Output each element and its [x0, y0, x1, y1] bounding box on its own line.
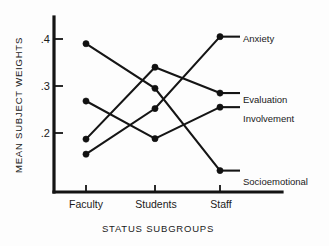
data-point-anxiety-staff[interactable] — [217, 34, 223, 40]
data-point-involvement-students[interactable] — [152, 136, 158, 142]
x-tick-label-faculty: Faculty — [69, 198, 104, 210]
x-axis-title: STATUS SUBGROUPS — [102, 223, 214, 234]
data-point-involvement-staff[interactable] — [217, 104, 223, 110]
series-labels-group: Anxiety Evaluation Involvement Socioemot… — [243, 33, 308, 187]
series-line-evaluation — [86, 67, 220, 139]
y-tick-label-2: .2 — [41, 127, 50, 139]
line-chart-svg: .4 .3 .2 Faculty Students Staff STATUS S… — [0, 0, 329, 246]
data-point-evaluation-students[interactable] — [152, 64, 158, 70]
x-ticks-group: Faculty Students Staff — [69, 185, 232, 210]
y-tick-label-1: .3 — [41, 80, 50, 92]
x-tick-label-staff: Staff — [210, 198, 231, 210]
data-point-socioemotional-staff[interactable] — [217, 168, 223, 174]
data-point-anxiety-students[interactable] — [152, 105, 158, 111]
data-point-socioemotional-faculty[interactable] — [83, 41, 89, 47]
y-tick-label-0: .4 — [41, 33, 50, 45]
series-layer — [83, 34, 240, 174]
data-point-socioemotional-students[interactable] — [152, 85, 158, 91]
series-label-anxiety: Anxiety — [243, 33, 274, 44]
data-point-evaluation-staff[interactable] — [217, 90, 223, 96]
series-label-socioemotional: Socioemotional — [243, 176, 308, 187]
y-ticks-group: .4 .3 .2 — [41, 33, 63, 139]
y-axis-title: MEAN SUBJECT WEIGHTS — [13, 37, 24, 173]
data-point-anxiety-faculty[interactable] — [83, 151, 89, 157]
series-label-evaluation: Evaluation — [243, 94, 287, 105]
data-point-involvement-faculty[interactable] — [83, 98, 89, 104]
chart-figure: .4 .3 .2 Faculty Students Staff STATUS S… — [0, 0, 329, 246]
x-tick-label-students: Students — [135, 198, 176, 210]
data-point-evaluation-faculty[interactable] — [83, 136, 89, 142]
series-label-involvement: Involvement — [243, 113, 295, 124]
